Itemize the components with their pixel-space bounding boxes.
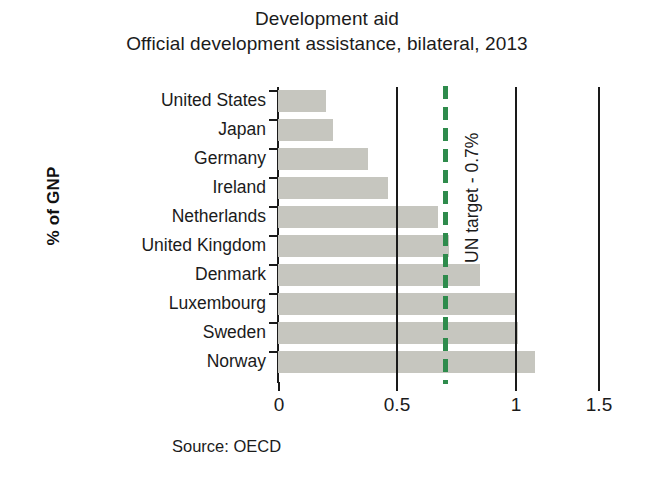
y-axis-tick-3	[269, 177, 278, 179]
chart-figure: Development aid Official development ass…	[0, 0, 654, 482]
source-note: Source: OECD	[172, 437, 281, 456]
page-title: Development aid	[0, 6, 654, 31]
y-tick-label-netherlands: Netherlands	[60, 206, 266, 226]
chart-subtitle: Official development assistance, bilater…	[0, 31, 654, 57]
y-axis-tick-5	[269, 235, 278, 237]
y-tick-label-japan: Japan	[60, 119, 266, 139]
un-target-annotation: UN target - 0.7%	[462, 133, 483, 263]
y-tick-label-luxembourg: Luxembourg	[60, 293, 266, 313]
y-tick-label-denmark: Denmark	[60, 264, 266, 284]
y-axis-tick-9	[269, 351, 278, 353]
gridline-1-0	[515, 87, 517, 383]
bar-netherlands	[278, 206, 438, 228]
x-axis-tick-1-5	[598, 382, 600, 391]
y-tick-label-norway: Norway	[60, 351, 266, 371]
y-axis-tick-0	[269, 90, 278, 92]
bar-ireland	[278, 177, 388, 199]
x-tick-label-1: 1	[486, 394, 546, 416]
x-tick-label-0-5: 0.5	[367, 394, 427, 416]
bar-denmark	[278, 264, 480, 286]
y-tick-label-united-states: United States	[60, 90, 266, 110]
chart-title-block: Development aid Official development ass…	[0, 6, 654, 57]
y-axis-tick-labels: United States Japan Germany Ireland Neth…	[60, 88, 266, 382]
bar-united-states	[278, 90, 326, 112]
y-tick-label-germany: Germany	[60, 148, 266, 168]
y-axis-tick-4	[269, 206, 278, 208]
y-tick-label-ireland: Ireland	[60, 177, 266, 197]
x-axis-tick-0-5	[396, 382, 398, 391]
bar-japan	[278, 119, 333, 141]
y-axis-tick-1	[269, 119, 278, 121]
gridline-1-5	[598, 87, 600, 383]
bar-norway	[278, 351, 535, 373]
y-tick-label-sweden: Sweden	[60, 322, 266, 342]
bar-germany	[278, 148, 368, 170]
y-axis-tick-7	[269, 293, 278, 295]
x-axis-tick-0	[278, 382, 280, 391]
un-target-line	[443, 86, 448, 384]
y-tick-label-united-kingdom: United Kingdom	[60, 235, 266, 255]
y-axis-tick-6	[269, 264, 278, 266]
y-axis-tick-8	[269, 322, 278, 324]
bar-united-kingdom	[278, 235, 449, 257]
bar-sweden	[278, 322, 518, 344]
plot-area: UN target - 0.7% 0 0.5 1 1.5	[278, 88, 598, 382]
gridline-0-5	[396, 87, 398, 383]
x-tick-label-0: 0	[249, 394, 309, 416]
x-tick-label-1-5: 1.5	[569, 394, 629, 416]
y-axis-tick-2	[269, 148, 278, 150]
x-axis-tick-1	[515, 382, 517, 391]
